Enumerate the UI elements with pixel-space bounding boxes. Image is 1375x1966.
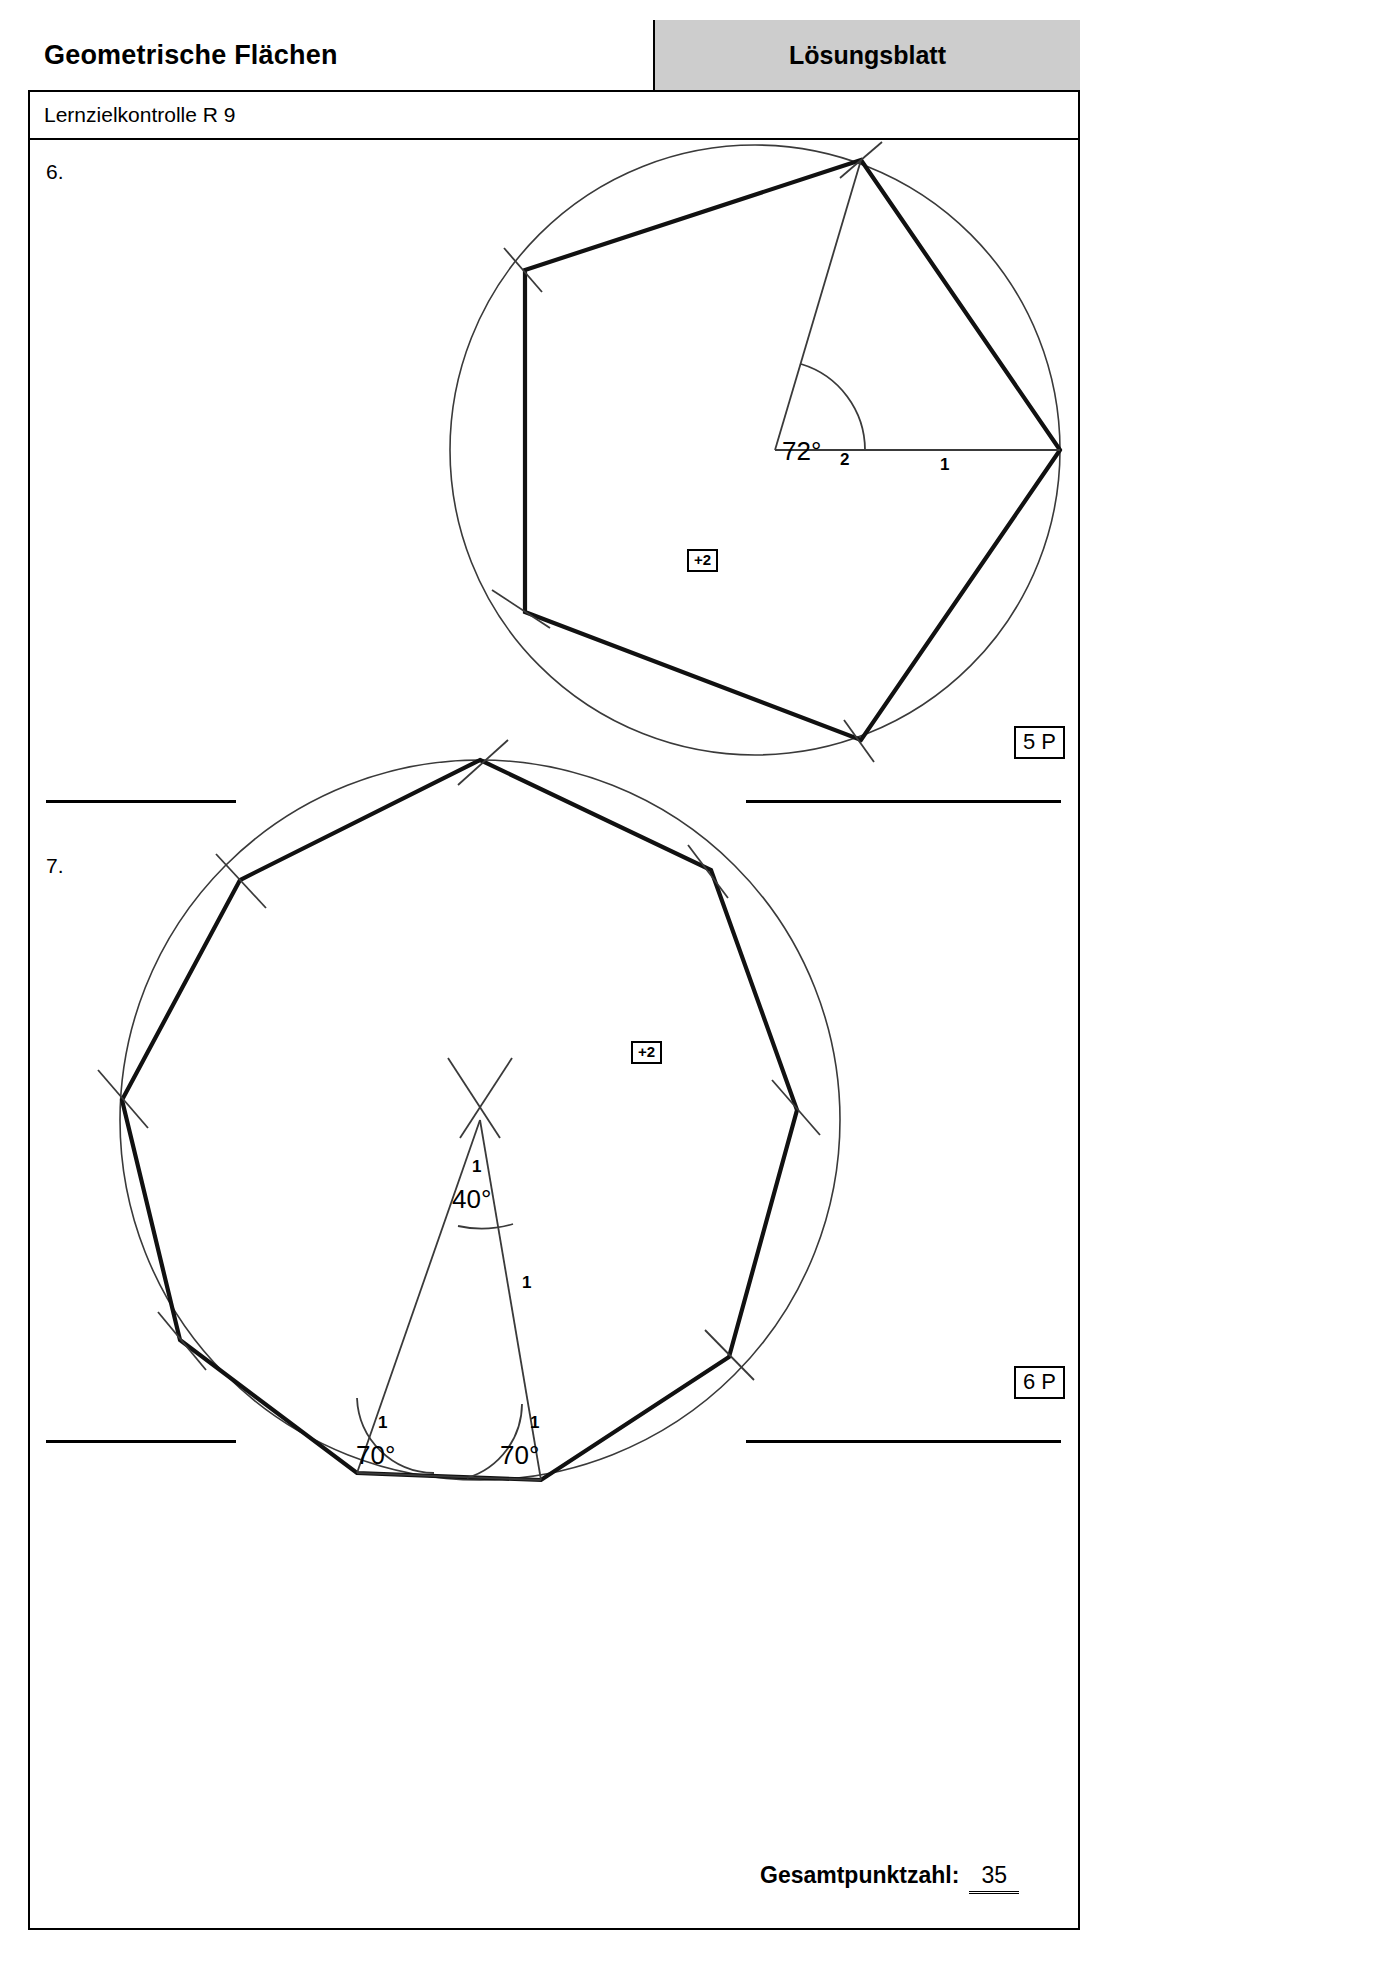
bonus-points-box-6: +2 <box>687 549 718 572</box>
header-row: Geometrische Flächen Lösungsblatt <box>28 20 1080 92</box>
tick-mark <box>705 1330 754 1380</box>
apex-angle-points-label: 1 <box>472 1157 481 1176</box>
compass-tick-marks <box>98 740 820 1380</box>
subtitle-label: Lernzielkontrolle R 9 <box>44 103 235 127</box>
right-base-angle-points-label: 1 <box>530 1413 539 1432</box>
angle-arc-40 <box>458 1224 513 1229</box>
task-number-6: 6. <box>46 160 64 184</box>
figure-pentagon-construction: 72° 2 1 <box>430 140 1080 760</box>
header-title-cell: Geometrische Flächen <box>28 20 655 90</box>
sheet-type-label: Lösungsblatt <box>789 41 946 70</box>
bonus-points-box-7: +2 <box>631 1041 662 1064</box>
radius-length-label: 1 <box>940 455 949 474</box>
nonagon-svg: 1 40° 1 1 70° 1 70° <box>60 740 900 1500</box>
task-separator-right-7 <box>746 1440 1061 1443</box>
tick-mark <box>492 590 550 628</box>
points-box-6: 5 P <box>1014 726 1065 759</box>
tick-mark <box>460 1058 512 1138</box>
worksheet-page: Geometrische Flächen Lösungsblatt Lernzi… <box>0 0 1375 1966</box>
left-base-angle-points-label: 1 <box>378 1413 387 1432</box>
construction-cross-marks <box>448 1058 512 1138</box>
angle-points-label: 2 <box>840 450 849 469</box>
triangle-leg-left <box>357 1120 480 1473</box>
tick-mark <box>458 740 508 785</box>
points-box-7: 6 P <box>1014 1366 1065 1399</box>
task-separator-left-7 <box>46 1440 236 1443</box>
total-score-label: Gesamtpunktzahl: <box>760 1862 959 1889</box>
header-sheet-type-cell: Lösungsblatt <box>655 20 1080 90</box>
pentagon-svg: 72° 2 1 <box>430 140 1080 760</box>
angle-label-72: 72° <box>782 436 821 466</box>
tick-mark <box>448 1058 500 1138</box>
total-score-row: Gesamtpunktzahl: 35 <box>760 1862 1019 1894</box>
subheader-row: Lernzielkontrolle R 9 <box>28 92 1080 140</box>
tick-mark <box>772 1080 820 1135</box>
figure-nonagon-construction: 1 40° 1 1 70° 1 70° <box>60 740 900 1500</box>
tick-mark <box>216 854 266 908</box>
left-base-angle-label: 70° <box>356 1440 395 1470</box>
apex-angle-label: 40° <box>452 1184 491 1214</box>
compass-tick-marks <box>492 142 882 762</box>
total-score-value: 35 <box>969 1862 1019 1894</box>
right-base-angle-label: 70° <box>500 1440 539 1470</box>
tick-mark <box>840 142 882 178</box>
page-title: Geometrische Flächen <box>44 40 338 71</box>
radius-ray-upper <box>775 160 861 450</box>
side-length-label: 1 <box>522 1273 531 1292</box>
